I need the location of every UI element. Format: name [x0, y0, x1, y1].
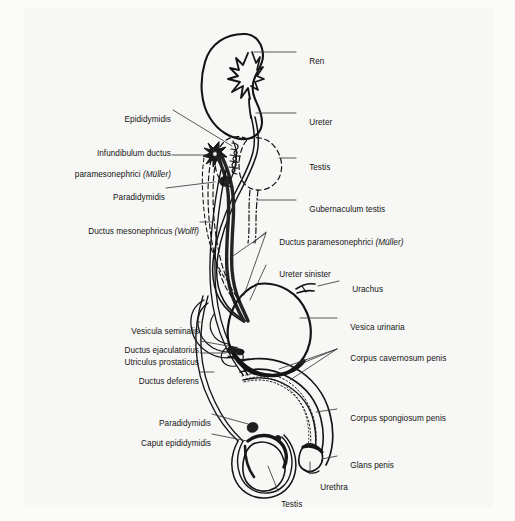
- label-caput-epididymidis: Caput epididymidis: [90, 429, 211, 460]
- label-ductus-mesonephricus-wolff: Ductus mesonephricus (Wolff): [44, 217, 199, 248]
- label-corpus-cavernosum-penis: Corpus cavernosum penis: [341, 344, 446, 375]
- label-ductus-deferens: Ductus deferens: [92, 367, 199, 398]
- label-ureter-sinister: Ureter sinister: [270, 260, 331, 291]
- label-paradidymidis-upper: Paradidymidis: [56, 183, 165, 214]
- label-muller-italic-2: (Müller): [375, 238, 403, 247]
- label-ren: Ren: [300, 47, 324, 78]
- anatomical-figure: Epididymidis Infundibulum ductus parames…: [0, 0, 515, 521]
- label-gubernaculum-testis: Gubernaculum testis: [300, 195, 385, 226]
- anatomy-illustration: [0, 0, 515, 521]
- label-testis-lower: Testis: [272, 490, 302, 521]
- label-urachus: Urachus: [343, 275, 383, 306]
- scrotum-and-testis: [232, 423, 296, 499]
- kidney-organ: [202, 34, 264, 139]
- vesica-urinaria: [228, 284, 315, 377]
- epididymis-coil-upper: [229, 141, 240, 179]
- label-ureter: Ureter: [300, 108, 332, 139]
- label-testis-upper: Testis: [300, 153, 330, 184]
- label-urethra: Urethra: [311, 473, 348, 504]
- label-vesica-urinaria: Vesica urinaria: [341, 313, 405, 344]
- label-epididymidis: Epididymidis: [58, 105, 171, 136]
- label-wolff-italic: (Wolff): [175, 227, 199, 236]
- label-corpus-spongiosum-penis: Corpus spongiosum penis: [341, 404, 446, 435]
- label-muller-italic: (Müller): [143, 170, 171, 179]
- label-glans-penis: Glans penis: [341, 451, 394, 482]
- label-ductus-paramesonephrici: Ductus paramesonephrici (Müller): [270, 228, 403, 259]
